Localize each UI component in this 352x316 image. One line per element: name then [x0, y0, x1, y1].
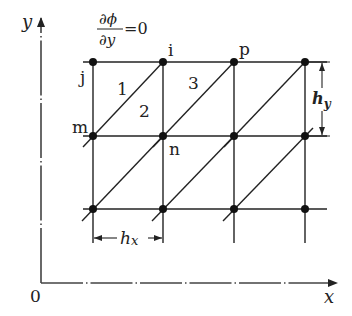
node-label-j: j [78, 67, 85, 87]
node-label-n: n [169, 139, 180, 159]
hx-label: hx [120, 228, 139, 248]
hy-label: hy [312, 89, 332, 111]
axes: y x 0 [21, 11, 337, 307]
y-axis-label: y [21, 11, 33, 32]
node-labels: j i p m n [72, 39, 250, 159]
node-p [230, 58, 238, 66]
node-m [89, 132, 97, 140]
node-label-m: m [72, 117, 88, 137]
origin-label: 0 [30, 286, 41, 306]
node-label-p: p [239, 39, 250, 59]
node-i [159, 58, 167, 66]
node-j [89, 58, 97, 66]
boundary-condition-label: ∂ϕ ∂y =0 [97, 10, 148, 49]
hx-dimension: hx [94, 228, 162, 248]
bc-denominator: ∂y [99, 31, 116, 49]
x-axis-label: x [324, 286, 334, 307]
node-r3c2 [159, 205, 167, 213]
element-label-1: 1 [117, 79, 128, 99]
node-label-i: i [168, 40, 174, 60]
node-r2c4 [301, 132, 309, 140]
bc-equals: =0 [124, 19, 148, 38]
node-n [159, 132, 167, 140]
node-r2c3 [230, 132, 238, 140]
node-r1c4 [301, 58, 309, 66]
hy-dimension: hy [309, 62, 332, 136]
node-r3c1 [89, 205, 97, 213]
bc-numerator: ∂ϕ [99, 10, 117, 28]
fem-grid-diagram: y x 0 ∂ϕ ∂y =0 [0, 0, 352, 316]
node-r3c3 [230, 205, 238, 213]
element-label-2: 2 [139, 101, 150, 121]
element-label-3: 3 [188, 73, 199, 93]
node-r3c4 [301, 205, 309, 213]
